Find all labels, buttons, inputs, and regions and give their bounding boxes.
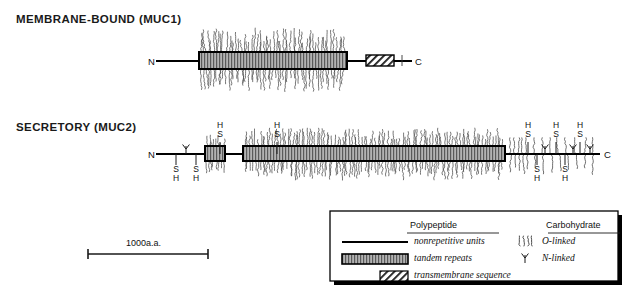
muc1-transmembrane-box [366,55,394,66]
cysteine-letter: S [217,129,223,139]
n-linked-arm [587,145,590,150]
muc1-c-terminus-label: C [415,56,422,67]
muc1-n-terminus-label: N [148,56,155,67]
cysteine-letter: H [534,173,540,183]
cysteine-label-above-2: HS [272,121,282,138]
legend-swatch-transmembrane [380,271,408,281]
cysteine-label-below-3: SH [532,165,542,182]
legend-item-nonrepetitive: nonrepetitive units [414,236,485,246]
cysteine-letter: H [173,173,179,183]
n-linked-arm [545,145,548,150]
legend-column-header-polypeptide: Polypeptide [410,220,457,230]
cysteine-label-above-3: HS [523,121,533,138]
diagram-vector-layer [0,0,629,292]
o-linked-glycan [576,155,577,169]
o-linked-glycan [533,138,535,153]
legend-item-n-linked: N-linked [542,253,575,263]
o-linked-glycan [592,155,593,174]
scale-bar-label: 1000a.a. [126,238,161,248]
n-linked-glycan-icon [542,145,549,155]
muc2-tandem-repeat-box-2 [243,146,505,161]
legend-column-header-carbohydrate: Carbohydrate [546,220,601,230]
cysteine-label-above-5: HS [575,121,585,138]
cysteine-label-below-2: SH [191,165,201,182]
o-linked-glycan [550,138,551,153]
cysteine-label-below-4: SH [560,165,570,182]
muc2-n-terminus-label: N [148,149,155,160]
cysteine-label-below-1: SH [171,165,181,182]
panel-title-muc1: MEMBRANE-BOUND (MUC1) [16,13,182,25]
legend-swatch-tandem [342,254,408,264]
o-linked-glycan [513,138,514,153]
o-linked-glycan [552,155,553,172]
n-linked-arm [186,145,189,150]
panel-title-muc2: SECRETORY (MUC2) [16,121,137,133]
cysteine-label-above-1: HS [215,121,225,138]
o-linked-glycan [584,155,585,168]
o-linked-glycan [574,138,575,153]
legend-item-tandem: tandem repeats [414,253,472,263]
n-linked-arm [183,145,186,150]
o-linked-glycan [515,155,516,167]
cysteine-label-above-4: HS [551,121,561,138]
o-linked-glycan [557,138,558,153]
n-linked-arm [570,145,573,150]
o-linked-glycan [542,155,543,174]
cysteine-letter: S [553,129,559,139]
muc1-structure [156,28,412,92]
muc1-tandem-repeat-box [199,52,347,69]
o-linked-glycan [584,138,587,153]
muc2-tandem-repeat-box-1 [205,146,225,161]
n-linked-glycan-icon [570,145,577,155]
cysteine-letter: S [525,129,531,139]
cysteine-letter: S [274,129,280,139]
o-linked-glycan [527,155,528,169]
o-linked-glycan [521,138,522,153]
o-linked-glycan [519,155,520,170]
legend-item-o-linked: O-linked [542,236,575,246]
o-linked-glycan [509,138,510,153]
muc2-c-terminus-label: C [604,149,611,160]
scale-bar [88,249,208,259]
o-linked-glycan [518,138,520,153]
o-linked-glycan [525,138,526,153]
o-linked-glycan [510,155,512,172]
cysteine-letter: S [577,129,583,139]
o-linked-glycan [523,155,525,174]
cysteine-letter: H [193,173,199,183]
legend-item-transmembrane: transmembrane sequence [414,270,511,280]
figure-canvas: MEMBRANE-BOUND (MUC1) SECRETORY (MUC2) N… [0,0,629,292]
o-linked-glycan [564,138,566,153]
cysteine-letter: H [562,173,568,183]
n-linked-glycan-icon [183,145,190,155]
